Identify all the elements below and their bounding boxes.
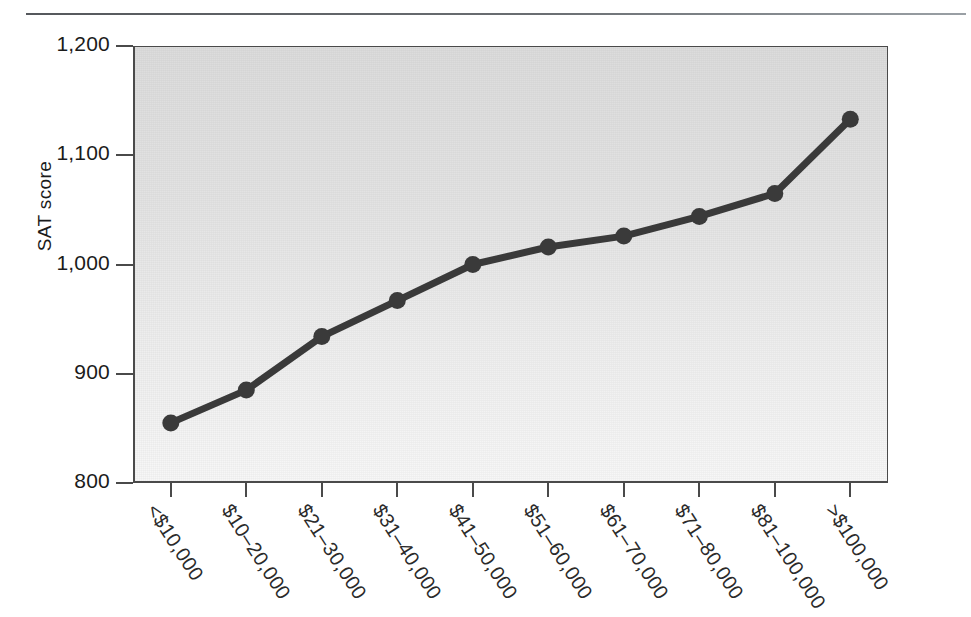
- x-axis-tick: [849, 483, 851, 497]
- y-axis-tick-label: 1,000: [26, 251, 110, 275]
- y-axis-tick-label: 900: [26, 360, 110, 384]
- y-axis-tick: [116, 154, 133, 156]
- x-axis-tick-label: >$100,000: [821, 500, 894, 595]
- y-axis-tick-label: 1,200: [26, 32, 110, 56]
- plot-background-texture: [135, 47, 887, 481]
- figure: SAT score 8009001,0001,1001,200 <$10,000…: [0, 0, 971, 617]
- x-axis-tick-label: $71–80,000: [670, 500, 748, 604]
- x-axis-tick-label: $51–60,000: [519, 500, 597, 604]
- y-axis-tick-label: 800: [26, 469, 110, 493]
- x-axis-tick: [547, 483, 549, 497]
- y-axis-tick: [116, 373, 133, 375]
- x-axis-tick-label: $21–30,000: [292, 500, 370, 604]
- x-axis-tick-label: $41–50,000: [443, 500, 521, 604]
- x-axis-tick: [623, 483, 625, 497]
- x-axis-tick-label: $10–20,000: [217, 500, 295, 604]
- plot-area: [133, 46, 888, 483]
- x-axis-tick-label: $61–70,000: [594, 500, 672, 604]
- y-axis-tick: [116, 45, 133, 47]
- x-axis-tick-label: $31–40,000: [368, 500, 446, 604]
- header-rule: [26, 13, 966, 15]
- x-axis-tick: [774, 483, 776, 497]
- y-axis-title: SAT score: [34, 106, 56, 306]
- y-axis-tick: [116, 482, 133, 484]
- x-axis-tick-label: <$10,000: [141, 500, 207, 585]
- y-axis-tick: [116, 264, 133, 266]
- x-axis-tick: [321, 483, 323, 497]
- x-axis-tick: [245, 483, 247, 497]
- x-axis-tick-label: $81–100,000: [745, 500, 830, 613]
- x-axis-tick: [170, 483, 172, 497]
- x-axis-tick: [472, 483, 474, 497]
- y-axis-tick-label: 1,100: [26, 141, 110, 165]
- x-axis-tick: [396, 483, 398, 497]
- x-axis-tick: [698, 483, 700, 497]
